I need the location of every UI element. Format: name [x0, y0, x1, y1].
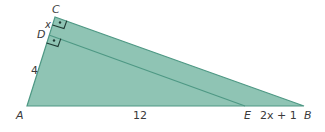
label-B: B: [304, 109, 312, 122]
length-EB: 2x + 1: [260, 109, 297, 122]
label-C: C: [52, 3, 60, 16]
length-CD: x: [44, 19, 51, 30]
length-AD: 4: [31, 64, 38, 77]
label-A: A: [15, 109, 24, 122]
triangle-ABC: [27, 17, 304, 106]
length-AE: 12: [133, 109, 147, 122]
label-E: E: [244, 109, 251, 122]
triangle-diagram: C D A E B x 4 12 2x + 1: [0, 0, 325, 132]
